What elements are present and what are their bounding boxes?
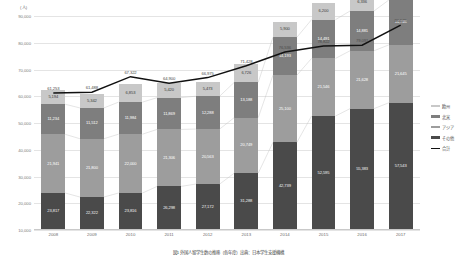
legend-item[interactable]: その他 bbox=[431, 135, 454, 141]
total-value-label: 76,536 bbox=[279, 45, 291, 50]
y-axis-tick-label: 50,000 bbox=[18, 121, 31, 126]
segment-connector bbox=[220, 118, 235, 130]
segment-connector bbox=[142, 186, 157, 193]
y-axis-tick-label: 70,000 bbox=[18, 67, 31, 72]
segment-connector bbox=[258, 142, 273, 173]
total-value-label: 61,253 bbox=[47, 86, 59, 91]
segment-connector bbox=[335, 51, 350, 59]
figure-caption: 図1 外国人留学生数の推移（各年度）出典：日本学生支援機構 bbox=[0, 249, 457, 255]
segment-connector bbox=[220, 82, 235, 96]
legend-label: 合計 bbox=[442, 145, 450, 151]
segment-connector bbox=[374, 103, 389, 109]
x-axis-tick-label: 2014 bbox=[280, 232, 290, 237]
segment-connector bbox=[104, 134, 119, 139]
legend-label: 北米 bbox=[442, 114, 450, 120]
segment-connector bbox=[297, 58, 312, 75]
total-value-label: 86,575 bbox=[395, 18, 407, 23]
y-axis-tick-label: 10,000 bbox=[18, 228, 31, 233]
y-axis-tick-label: 40,000 bbox=[18, 147, 31, 152]
total-value-label: 71,428 bbox=[240, 59, 252, 64]
segment-connector bbox=[104, 102, 119, 108]
legend-item-total[interactable]: 合計 bbox=[431, 145, 454, 151]
segment-connector bbox=[181, 184, 196, 186]
y-axis-tick-label: 60,000 bbox=[18, 94, 31, 99]
total-value-label: 64,900 bbox=[163, 76, 175, 81]
segment-connector bbox=[297, 20, 312, 38]
segment-connector bbox=[181, 96, 196, 97]
bar-segment[interactable]: 6,336 bbox=[350, 0, 374, 11]
segment-connector bbox=[104, 193, 119, 197]
segment-connector bbox=[374, 0, 389, 11]
segment-connector bbox=[297, 116, 312, 142]
x-axis-tick-label: 2010 bbox=[126, 232, 136, 237]
x-axis-tick-label: 2009 bbox=[87, 232, 97, 237]
gridline bbox=[34, 230, 420, 231]
segment-connector bbox=[374, 45, 389, 51]
line-series-overlay bbox=[34, 16, 420, 230]
chart-container: (人) 90,00080,00070,00060,00050,00040,000… bbox=[0, 0, 457, 255]
segment-connector bbox=[220, 173, 235, 184]
legend-swatch bbox=[431, 126, 440, 129]
legend-label: アジア bbox=[442, 124, 454, 130]
x-axis-tick-label: 2016 bbox=[357, 232, 367, 237]
total-value-label: 66,975 bbox=[202, 71, 214, 76]
y-axis-tick-label: 20,000 bbox=[18, 201, 31, 206]
x-axis-line bbox=[34, 229, 420, 230]
y-axis-tick-label: 90,000 bbox=[18, 14, 31, 19]
x-axis-tick-label: 2015 bbox=[319, 232, 329, 237]
total-line[interactable] bbox=[53, 25, 400, 93]
legend-swatch bbox=[431, 115, 440, 118]
legend-line-swatch bbox=[431, 148, 440, 149]
legend-item[interactable]: アジア bbox=[431, 124, 454, 130]
legend-label: 欧州 bbox=[442, 103, 450, 109]
legend-item[interactable]: 欧州 bbox=[431, 103, 454, 109]
segment-connector bbox=[142, 129, 157, 134]
segment-connector bbox=[65, 193, 80, 197]
bar-segment-label: 6,200 bbox=[319, 9, 329, 13]
segment-connector bbox=[335, 11, 350, 20]
chart-legend: 欧州北米アジアその他合計 bbox=[431, 103, 454, 151]
legend-label: その他 bbox=[442, 135, 454, 141]
legend-swatch bbox=[431, 105, 440, 108]
x-axis-tick-labels: 2008200920102011201220132014201520162017 bbox=[34, 232, 420, 242]
segment-connector bbox=[65, 134, 80, 138]
x-axis-tick-label: 2012 bbox=[203, 232, 213, 237]
total-value-label: 67,322 bbox=[124, 70, 136, 75]
segment-connector bbox=[335, 109, 350, 116]
y-axis-tick-label: 80,000 bbox=[18, 40, 31, 45]
segment-connector bbox=[258, 75, 273, 117]
bar-segment-label: 6,336 bbox=[357, 0, 367, 4]
legend-swatch bbox=[431, 136, 440, 139]
y-axis-unit-label: (人) bbox=[20, 4, 27, 10]
x-axis-tick-label: 2017 bbox=[396, 232, 406, 237]
segment-connector bbox=[142, 98, 157, 102]
x-axis-tick-label: 2013 bbox=[242, 232, 252, 237]
total-value-label: 79,091 bbox=[356, 38, 368, 43]
plot-area: 90,00080,00070,00060,00050,00040,00030,0… bbox=[34, 16, 420, 230]
total-value-label: 78,822 bbox=[317, 39, 329, 44]
legend-item[interactable]: 北米 bbox=[431, 114, 454, 120]
x-axis-tick-label: 2008 bbox=[49, 232, 59, 237]
segment-connector bbox=[258, 37, 273, 82]
total-value-label: 61,488 bbox=[86, 85, 98, 90]
segment-connector bbox=[65, 104, 80, 108]
x-axis-tick-label: 2011 bbox=[164, 232, 173, 237]
y-axis-tick-label: 30,000 bbox=[18, 174, 31, 179]
